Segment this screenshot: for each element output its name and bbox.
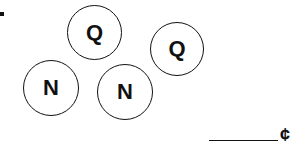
bullet-mark bbox=[0, 12, 4, 16]
coin-nickel: N bbox=[97, 64, 153, 120]
coin-quarter: Q bbox=[150, 22, 204, 76]
answer-blank[interactable] bbox=[209, 128, 278, 141]
coin-quarter: Q bbox=[67, 5, 122, 60]
coin-nickel: N bbox=[23, 60, 79, 116]
cent-sign: ¢ bbox=[280, 126, 290, 144]
answer-field: ¢ bbox=[209, 126, 290, 144]
